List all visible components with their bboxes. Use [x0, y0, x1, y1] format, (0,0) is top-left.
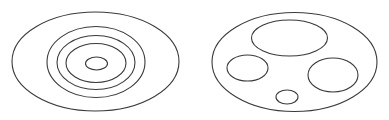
concentric-ellipses-ellipse-4	[86, 57, 108, 70]
nested-separate-ellipses-figure	[212, 13, 377, 112]
nested-separate-ellipses-ellipse-4	[276, 90, 298, 104]
diagram-canvas	[0, 0, 389, 120]
concentric-ellipses-figure	[12, 12, 179, 111]
nested-separate-ellipses-ellipse-2	[227, 55, 268, 81]
nested-separate-ellipses-ellipse-0	[212, 13, 377, 112]
nested-separate-ellipses-ellipse-1	[252, 20, 328, 56]
concentric-ellipses-ellipse-1	[47, 27, 145, 98]
nested-separate-ellipses-ellipse-3	[308, 58, 358, 92]
ellipse-diagram	[0, 0, 389, 120]
concentric-ellipses-ellipse-3	[66, 44, 126, 83]
